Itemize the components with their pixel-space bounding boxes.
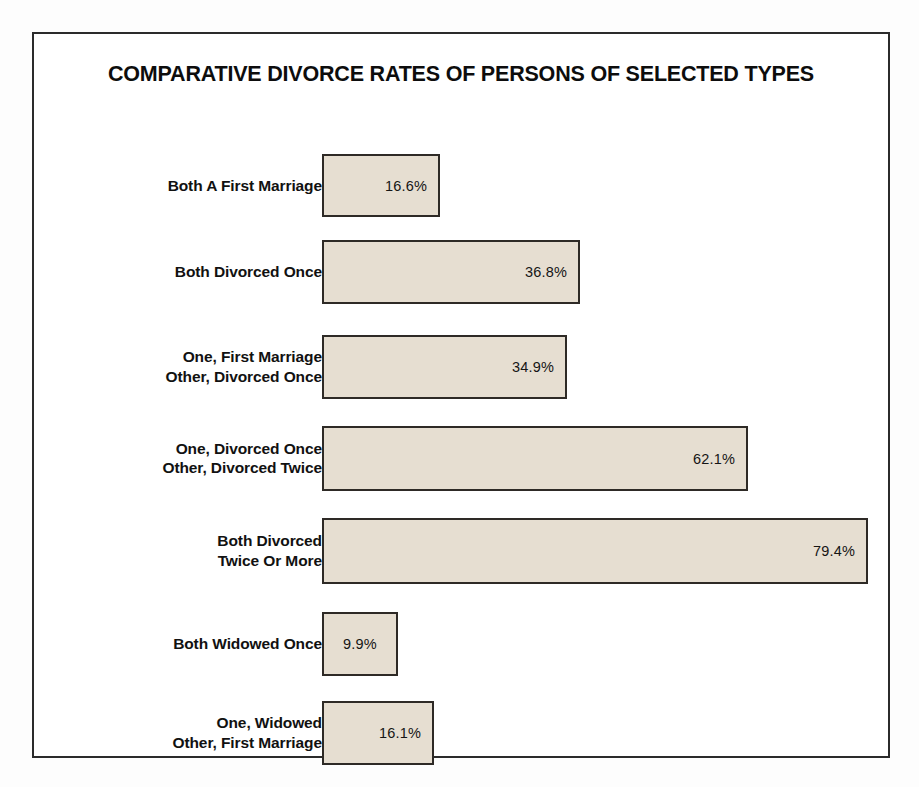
bar-value-label: 62.1% — [693, 451, 746, 467]
bar-category-label: Both Divorced Once — [175, 262, 322, 282]
bar-row: Both Divorced Twice Or More79.4% — [34, 518, 888, 584]
bar-value-label: 79.4% — [813, 543, 866, 559]
bar-shape: 62.1% — [322, 426, 748, 491]
chart-frame: COMPARATIVE DIVORCE RATES OF PERSONS OF … — [32, 32, 890, 758]
bar-category-label: One, Divorced Once Other, Divorced Twice — [162, 439, 322, 479]
bar-row: Both Divorced Once36.8% — [34, 240, 888, 304]
bar-category-label: One, First Marriage Other, Divorced Once — [166, 347, 323, 387]
bar-shape: 79.4% — [322, 518, 868, 584]
bar-value-label: 36.8% — [525, 264, 578, 280]
bar-shape: 36.8% — [322, 240, 580, 304]
bar-row: Both A First Marriage16.6% — [34, 154, 888, 217]
bar-value-label: 34.9% — [512, 359, 565, 375]
bar-row: One, Divorced Once Other, Divorced Twice… — [34, 426, 888, 491]
bar-category-label: Both Divorced Twice Or More — [217, 531, 322, 571]
bar-row: Both Widowed Once9.9% — [34, 612, 888, 676]
bar-value-label: 16.1% — [379, 725, 432, 741]
bar-shape: 9.9% — [322, 612, 398, 676]
bar-value-label: 16.6% — [385, 178, 438, 194]
bar-row: One, Widowed Other, First Marriage16.1% — [34, 701, 888, 765]
bar-value-label: 9.9% — [343, 636, 377, 652]
bar-category-label: Both A First Marriage — [168, 176, 322, 196]
bar-shape: 16.1% — [322, 701, 434, 765]
bar-category-label: One, Widowed Other, First Marriage — [172, 713, 322, 753]
bar-shape: 16.6% — [322, 154, 440, 217]
chart-title: COMPARATIVE DIVORCE RATES OF PERSONS OF … — [34, 62, 888, 87]
bar-category-label: Both Widowed Once — [173, 634, 322, 654]
bar-row: One, First Marriage Other, Divorced Once… — [34, 335, 888, 399]
bar-shape: 34.9% — [322, 335, 567, 399]
bar-chart-plot-area: Both A First Marriage16.6%Both Divorced … — [34, 112, 888, 752]
